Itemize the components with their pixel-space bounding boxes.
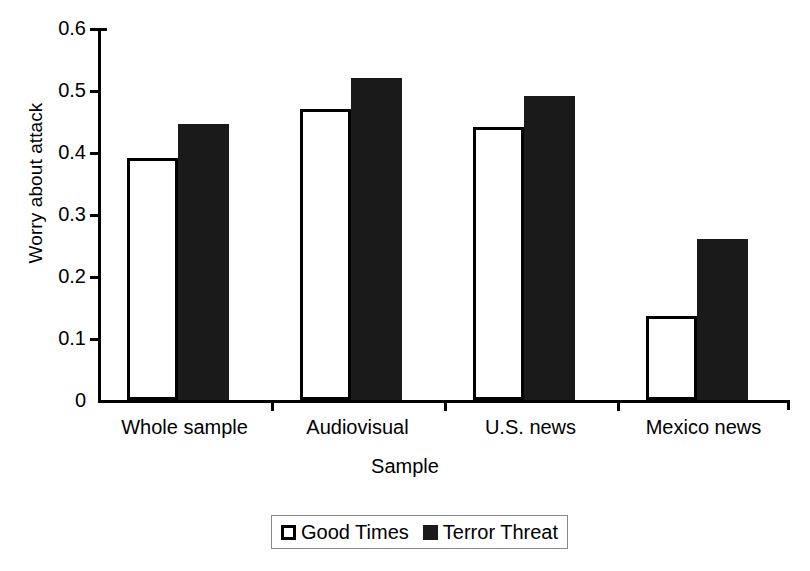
x-axis-right-cap <box>787 400 790 410</box>
bar-chart: Worry about attack 00.10.20.30.40.50.6 W… <box>0 0 810 571</box>
bar-whole-sample-good-times <box>127 158 178 400</box>
y-tick-label-text: 0 <box>32 390 86 410</box>
bar-audiovisual-terror-threat <box>351 78 402 400</box>
x-category-separator <box>271 400 274 411</box>
legend-swatch-icon <box>423 525 438 540</box>
x-category-label: Mexico news <box>617 416 790 439</box>
legend-entry-good-times[interactable]: Good Times <box>281 522 409 542</box>
y-tick-label-text: 0.2 <box>32 266 86 286</box>
y-tick-label-text: 0.6 <box>32 18 86 38</box>
x-category-separator <box>617 400 620 411</box>
y-tick-label-text: 0.3 <box>32 204 86 224</box>
legend-entry-terror-threat[interactable]: Terror Threat <box>423 522 558 542</box>
bar-mexico-news-good-times <box>646 316 697 400</box>
bar-audiovisual-good-times <box>300 109 351 400</box>
x-axis-title: Sample <box>0 455 810 478</box>
legend-swatch-icon <box>281 525 296 540</box>
bar-mexico-news-terror-threat <box>697 239 748 400</box>
x-category-label: Audiovisual <box>271 416 444 439</box>
chart-legend: Good TimesTerror Threat <box>271 515 568 549</box>
plot-area <box>98 28 790 400</box>
x-category-separator <box>444 400 447 411</box>
legend-label: Good Times <box>301 522 409 542</box>
bar-u-s-news-good-times <box>473 127 524 400</box>
legend-label: Terror Threat <box>443 522 558 542</box>
y-tick-label-text: 0.4 <box>32 142 86 162</box>
x-category-label: U.S. news <box>444 416 617 439</box>
bar-u-s-news-terror-threat <box>524 96 575 400</box>
bar-whole-sample-terror-threat <box>178 124 229 400</box>
y-tick-label-text: 0.5 <box>32 80 86 100</box>
x-category-label: Whole sample <box>98 416 271 439</box>
y-tick-label-text: 0.1 <box>32 328 86 348</box>
